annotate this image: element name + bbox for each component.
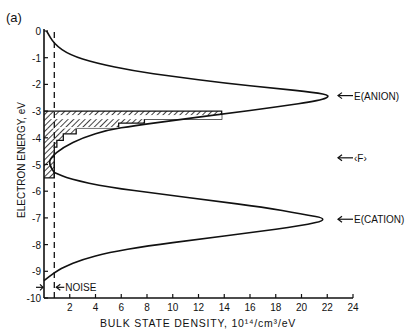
y-tick-label: -6 [32,186,41,197]
x-tick-label: 6 [118,302,124,313]
x-tick-label: 8 [144,302,150,313]
y-axis-label: ELECTRON ENERGY, eV [16,102,27,218]
y-tick-label: -2 [32,79,41,90]
y-tick-label: 0 [35,26,41,37]
plot-area: 0-1-2-3-4-5-6-7-8-9-10246810121416182022… [27,26,405,313]
x-tick-label: 22 [322,302,334,313]
y-tick-label: -1 [32,53,41,64]
x-tick-label: 12 [193,302,205,313]
y-tick-label: -9 [32,266,41,277]
x-axis-label: BULK STATE DENSITY, 10¹⁴/cm³/eV [100,317,296,329]
x-tick-label: 20 [296,302,308,313]
histogram-bin-clear [50,127,119,128]
y-tick-label: -4 [32,133,41,144]
histogram-bin-fill [44,128,76,133]
density-curve [44,173,323,281]
y-tick-label: -3 [32,106,41,117]
x-tick-label: 10 [167,302,179,313]
x-tick-label: 16 [244,302,256,313]
x-tick-label: 2 [67,302,73,313]
x-tick-label: 18 [270,302,282,313]
annotation-label: E(ANION) [354,91,399,102]
panel-label: (a) [6,10,22,25]
y-tick-label: -10 [27,293,42,304]
x-axis-label-text: BULK STATE DENSITY, 10¹⁴/cm³/eV [100,317,296,329]
chart: 0-1-2-3-4-5-6-7-8-9-10246810121416182022… [0,0,413,334]
x-tick-label: 24 [347,302,359,313]
y-tick-label: -7 [32,213,41,224]
x-tick-label: 4 [93,302,99,313]
density-curve [47,31,328,173]
annotation-label: E(CATION) [354,214,404,225]
annotation-label: ‹F› [354,153,367,164]
y-tick-label: -5 [32,160,41,171]
noise-label: NOISE [65,282,96,293]
x-tick-label: 14 [219,302,231,313]
y-tick-label: -8 [32,240,41,251]
